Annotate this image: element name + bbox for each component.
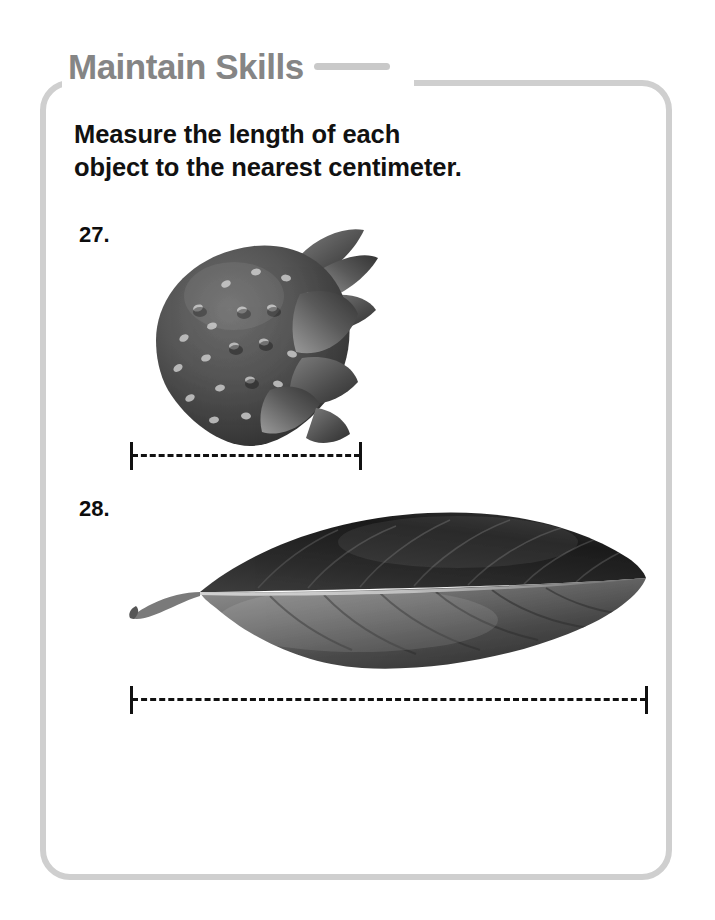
problem-number-28: 28.	[79, 496, 110, 522]
measure-line-27-right-cap	[359, 442, 362, 470]
page-title: Maintain Skills	[68, 49, 304, 84]
exercise-frame	[40, 80, 672, 880]
problem-number-27: 27.	[79, 222, 110, 248]
horizontal-rule-icon	[314, 63, 390, 70]
measure-line-28-dash	[132, 698, 646, 701]
leaf-stem	[129, 592, 200, 619]
measure-line-27-dash	[132, 454, 360, 457]
measure-line-28	[130, 686, 648, 714]
measure-line-27	[130, 442, 362, 470]
leaf-photo	[128, 508, 650, 678]
instructions-text: Measure the length of each object to the…	[74, 118, 494, 184]
instructions-line-1: Measure the length of each	[74, 118, 494, 151]
section-header: Maintain Skills	[68, 42, 390, 90]
textbook-page: Maintain Skills Measure the length of ea…	[0, 0, 715, 920]
measure-line-28-right-cap	[645, 686, 648, 714]
instructions-line-2: object to the nearest centimeter.	[74, 151, 494, 184]
strawberry-photo	[150, 222, 380, 450]
